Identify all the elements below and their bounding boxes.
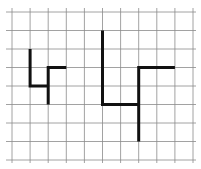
- grid-diagram: [0, 0, 201, 169]
